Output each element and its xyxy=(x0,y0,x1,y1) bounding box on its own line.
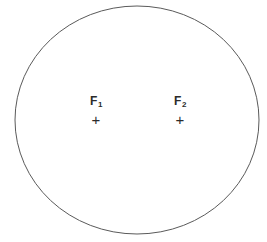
ellipse-diagram: F1 + F2 + xyxy=(0,0,267,242)
focus-point-1: F1 + xyxy=(78,95,114,127)
focus-2-plus-mark: + xyxy=(162,112,198,127)
ellipse-shape xyxy=(15,6,259,234)
focus-2-letter: F xyxy=(174,94,182,108)
focus-1-plus-mark: + xyxy=(78,112,114,127)
focus-2-label: F2 xyxy=(162,95,198,107)
ellipse-outline xyxy=(0,0,267,242)
focus-1-letter: F xyxy=(90,94,98,108)
focus-point-2: F2 + xyxy=(162,95,198,127)
focus-2-subscript: 2 xyxy=(182,100,187,109)
focus-1-label: F1 xyxy=(78,95,114,107)
focus-1-subscript: 1 xyxy=(98,100,103,109)
